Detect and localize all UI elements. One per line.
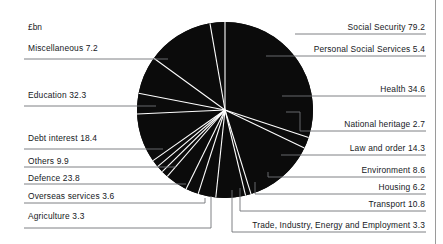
callout-label-transport: Transport 10.8 [368, 199, 425, 209]
callout-label-education: Education 32.3 [28, 90, 86, 100]
callout-label-law-and-order: Law and order 14.3 [350, 143, 425, 153]
callout-label-overseas-services: Overseas services 3.6 [28, 191, 114, 201]
callout-label-miscellaneous: Miscellaneous 7.2 [28, 43, 98, 53]
callout-label-housing: Housing 6.2 [378, 182, 425, 192]
pie-slice-group [137, 22, 313, 198]
pie-chart-figure: £bn Miscellaneous 7.2 Education 32.3 Deb… [0, 0, 443, 244]
callout-label-national-heritage: National heritage 2.7 [344, 119, 425, 129]
callout-label-trade-industry-energy-employment: Trade, Industry, Energy and Employment 3… [252, 220, 425, 230]
callout-label-personal-social-services: Personal Social Services 5.4 [314, 44, 425, 54]
unit-label: £bn [28, 22, 42, 32]
callout-label-environment: Environment 8.6 [361, 165, 425, 175]
callout-label-health: Health 34.6 [380, 84, 425, 94]
callout-label-others: Others 9.9 [28, 156, 69, 166]
callout-label-agriculture: Agriculture 3.3 [28, 211, 85, 221]
callout-label-defence: Defence 23.8 [28, 173, 80, 183]
callout-label-debt-interest: Debt interest 18.4 [28, 133, 97, 143]
callout-label-social-security: Social Security 79.2 [348, 22, 425, 32]
